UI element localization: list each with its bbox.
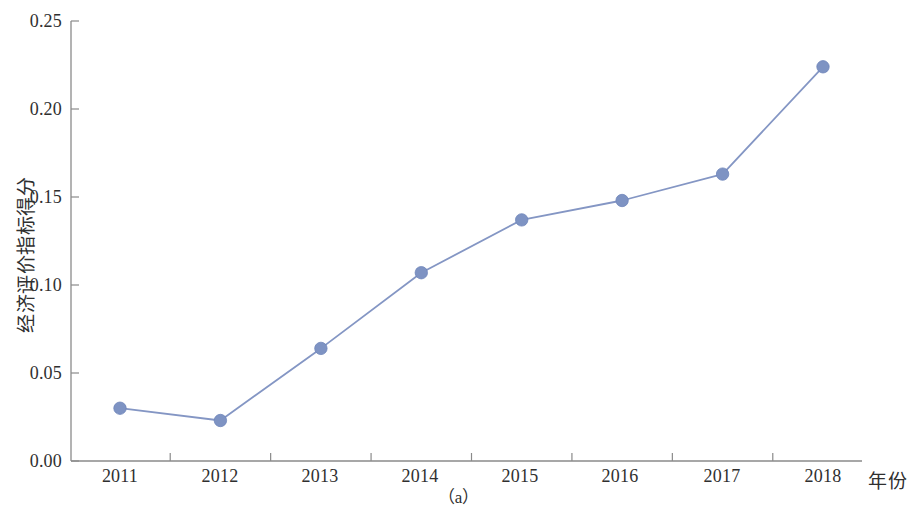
data-point [214, 414, 226, 426]
x-axis-tick-marks [170, 453, 773, 461]
data-point [817, 61, 829, 73]
plot-area [0, 0, 917, 506]
data-point [516, 214, 528, 226]
data-point [616, 194, 628, 206]
data-series-markers [114, 61, 829, 427]
data-point [114, 402, 126, 414]
data-series-line [120, 67, 823, 421]
economic-index-line-chart: 经济评价指标得分 年份 （a） 0.00 0.05 0.10 0.15 0.20… [0, 0, 917, 506]
axis-lines [71, 21, 862, 461]
data-point [716, 168, 728, 180]
data-point [415, 267, 427, 279]
y-axis-tick-marks [71, 21, 79, 461]
data-point [315, 342, 327, 354]
